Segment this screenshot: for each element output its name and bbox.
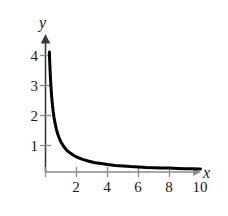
data-curve (49, 52, 200, 169)
y-tick-label: 2 (31, 109, 39, 124)
x-tick-label: 4 (103, 180, 111, 195)
x-tick-label: 8 (165, 180, 173, 195)
chart-figure: 2 4 6 8 10 1 2 3 4 x y (0, 0, 228, 216)
x-axis-label: x (203, 165, 210, 181)
x-tick-label: 6 (134, 180, 142, 195)
x-tick-label: 2 (72, 180, 80, 195)
y-tick-label: 4 (31, 49, 39, 64)
y-tick-label: 3 (31, 79, 39, 94)
y-tick-label: 1 (31, 139, 39, 154)
x-tick-label: 10 (193, 180, 208, 195)
y-axis-label: y (39, 15, 46, 31)
